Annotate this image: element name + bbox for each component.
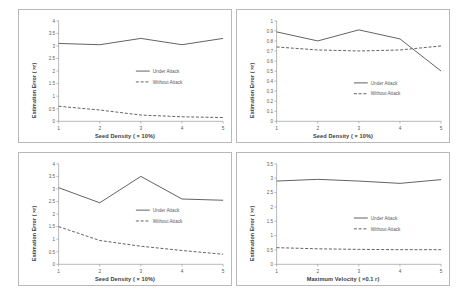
svg-text:5: 5 [222,126,225,131]
svg-text:Without Attack: Without Attack [153,219,183,224]
plot-area-1: 00.10.20.30.40.50.60.70.80.9112345Under … [237,10,449,142]
svg-text:4: 4 [53,19,56,24]
svg-text:3.5: 3.5 [49,174,56,179]
svg-text:0.5: 0.5 [49,107,56,112]
chart-panel-3: 00.511.522.533.512345Under AttackWithout… [236,152,450,286]
line-chart-0: 00.511.522.533.5412345Under AttackWithou… [19,10,231,142]
svg-text:Under Attack: Under Attack [371,216,398,221]
svg-text:2.5: 2.5 [49,56,56,61]
svg-text:0.9: 0.9 [267,29,274,34]
svg-text:3: 3 [140,269,143,274]
svg-text:Without Attack: Without Attack [371,227,401,232]
svg-text:0.6: 0.6 [267,59,274,64]
chart-panel-1: 00.10.20.30.40.50.60.70.80.9112345Under … [236,9,450,143]
svg-text:2: 2 [316,126,319,131]
svg-text:3: 3 [53,187,56,192]
svg-text:0.5: 0.5 [49,250,56,255]
svg-text:Without Attack: Without Attack [153,80,183,85]
line-chart-1: 00.10.20.30.40.50.60.70.80.9112345Under … [237,10,449,142]
svg-text:2: 2 [53,69,56,74]
svg-text:0.2: 0.2 [267,99,274,104]
svg-text:5: 5 [440,126,443,131]
svg-text:1: 1 [53,237,56,242]
svg-text:0: 0 [53,262,56,267]
chart-panel-2: 00.511.522.533.5412345Under AttackWithou… [18,152,232,286]
svg-text:3: 3 [53,44,56,49]
figure-grid: 00.511.522.533.5412345Under AttackWithou… [0,0,466,293]
x-axis-label-2: Seed Density ( × 10%) [19,276,231,282]
svg-text:5: 5 [440,269,443,274]
svg-text:0.8: 0.8 [267,39,274,44]
svg-text:4: 4 [181,269,184,274]
svg-text:1: 1 [53,94,56,99]
svg-text:Under Attack: Under Attack [371,81,398,86]
svg-text:3: 3 [271,176,274,181]
svg-text:Without Attack: Without Attack [371,91,401,96]
svg-text:1: 1 [275,126,278,131]
plot-area-2: 00.511.522.533.5412345Under AttackWithou… [19,153,231,285]
x-axis-label-3: Maximum Velocity ( ×0.1 r) [237,276,449,282]
svg-text:0.5: 0.5 [267,69,274,74]
svg-text:1: 1 [57,269,60,274]
svg-text:2: 2 [98,269,101,274]
x-axis-label-0: Seed Density ( × 10%) [19,133,231,139]
plot-area-3: 00.511.522.533.512345Under AttackWithout… [237,153,449,285]
svg-text:0.3: 0.3 [267,89,274,94]
svg-text:0.4: 0.4 [267,79,274,84]
svg-text:2: 2 [98,126,101,131]
svg-text:1: 1 [57,126,60,131]
svg-text:2: 2 [53,212,56,217]
svg-text:3: 3 [358,126,361,131]
y-axis-label-2: Estimation Error ( ×r) [31,206,37,261]
svg-text:3.5: 3.5 [267,162,274,167]
svg-text:1: 1 [271,233,274,238]
svg-text:1.5: 1.5 [49,81,56,86]
chart-panel-0: 00.511.522.533.5412345Under AttackWithou… [18,9,232,143]
svg-text:3.5: 3.5 [49,31,56,36]
svg-text:5: 5 [222,269,225,274]
plot-area-0: 00.511.522.533.5412345Under AttackWithou… [19,10,231,142]
svg-text:4: 4 [399,269,402,274]
svg-text:0: 0 [53,119,56,124]
svg-text:0: 0 [271,119,274,124]
line-chart-2: 00.511.522.533.5412345Under AttackWithou… [19,153,231,285]
svg-text:1: 1 [275,269,278,274]
svg-text:1.5: 1.5 [49,224,56,229]
svg-text:3: 3 [140,126,143,131]
svg-text:Under Attack: Under Attack [153,208,180,213]
line-chart-3: 00.511.522.533.512345Under AttackWithout… [237,153,449,285]
svg-text:Under Attack: Under Attack [153,69,180,74]
svg-text:2: 2 [316,269,319,274]
svg-text:0.7: 0.7 [267,49,274,54]
svg-text:4: 4 [181,126,184,131]
svg-text:0.5: 0.5 [267,248,274,253]
svg-text:1: 1 [271,19,274,24]
svg-text:0.1: 0.1 [267,109,274,114]
y-axis-label-0: Estimation Error ( ×r) [31,63,37,118]
x-axis-label-1: Seed Density ( × 10%) [237,133,449,139]
svg-text:1.5: 1.5 [267,219,274,224]
svg-text:0: 0 [271,262,274,267]
svg-text:2.5: 2.5 [267,190,274,195]
svg-text:4: 4 [399,126,402,131]
svg-text:2.5: 2.5 [49,199,56,204]
y-axis-label-3: Estimation Error ( ×r) [249,206,255,261]
svg-text:4: 4 [53,162,56,167]
svg-text:3: 3 [358,269,361,274]
svg-text:2: 2 [271,205,274,210]
y-axis-label-1: Estimation Error ( ×r) [249,63,255,118]
